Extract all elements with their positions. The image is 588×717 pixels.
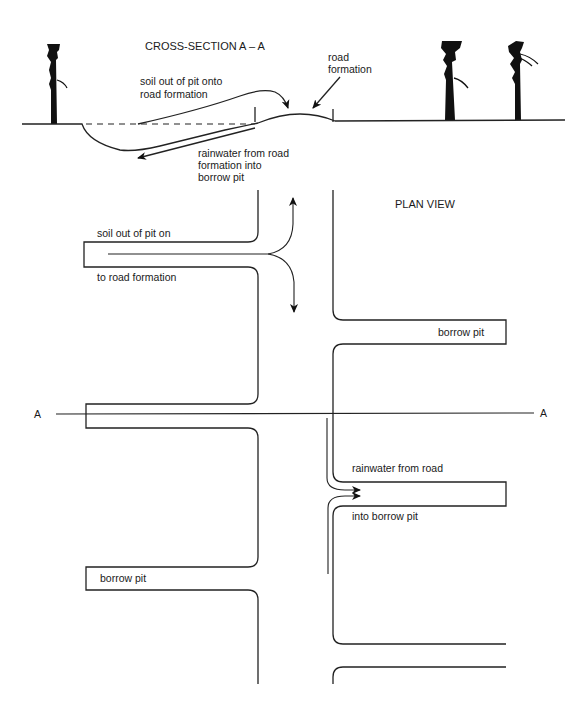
borrow-pit-label-lower-left: borrow pit bbox=[100, 572, 146, 584]
soil-plan-arrow-up bbox=[268, 198, 293, 254]
borrow-pit-label-upper-right: borrow pit bbox=[438, 326, 484, 338]
rainwater-label-line3: borrow pit bbox=[198, 171, 244, 183]
cross-section-title: CROSS-SECTION A – A bbox=[145, 40, 265, 52]
road-formation-label-line1: road bbox=[328, 51, 349, 63]
road-edge-right-lower bbox=[333, 667, 506, 684]
soil-plan-label-line2: to road formation bbox=[97, 271, 177, 283]
rainwater-label-line1: rainwater from road bbox=[198, 147, 289, 159]
tree-icon bbox=[508, 41, 538, 120]
road-edge-right bbox=[333, 190, 506, 644]
ground-line bbox=[22, 114, 565, 151]
rainwater-plan-label-line2: into borrow pit bbox=[352, 510, 418, 522]
borrow-pit-diagram: CROSS-SECTION A – A soil out of pit onto… bbox=[0, 0, 588, 717]
rainwater-label-line2: formation into bbox=[198, 159, 262, 171]
soil-label-line2: road formation bbox=[140, 88, 208, 100]
soil-label-line1: soil out of pit onto bbox=[140, 75, 222, 87]
soil-plan-label-line1: soil out of pit on bbox=[97, 227, 171, 239]
cross-section: CROSS-SECTION A – A soil out of pit onto… bbox=[22, 40, 565, 183]
plan-view: PLAN VIEW A A soil out of pit on to road… bbox=[34, 190, 547, 684]
tree-icon bbox=[441, 41, 468, 120]
road-formation-label-line2: formation bbox=[328, 63, 372, 75]
road-edge-left bbox=[84, 190, 258, 684]
section-marker-right: A bbox=[540, 407, 547, 419]
section-line-a-a bbox=[56, 413, 534, 414]
soil-plan-arrow-down bbox=[268, 254, 294, 312]
plan-view-title: PLAN VIEW bbox=[395, 198, 456, 210]
road-formation-pointer-arrow bbox=[313, 77, 340, 108]
rainwater-plan-label-line1: rainwater from road bbox=[352, 462, 443, 474]
rainwater-plan-arrow-upper bbox=[327, 418, 360, 490]
section-marker-left: A bbox=[34, 408, 41, 420]
tree-icon bbox=[47, 44, 67, 124]
